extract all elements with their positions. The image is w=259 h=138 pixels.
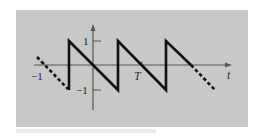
x-tick-label-neg1: −1 xyxy=(31,70,43,82)
x-axis-label: t xyxy=(227,68,231,82)
sawtooth-chart: 1 −1 −1 T t xyxy=(0,0,259,138)
x-tick-label-T: T xyxy=(134,69,142,83)
y-tick-label-neg1: −1 xyxy=(76,84,88,96)
x-axis xyxy=(34,61,232,68)
wave-extension-right xyxy=(191,65,215,90)
y-tick-label-1: 1 xyxy=(83,35,89,47)
